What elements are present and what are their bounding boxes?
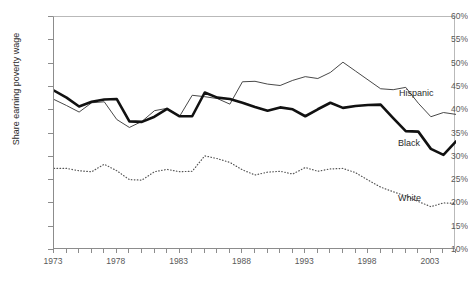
y-tick-mark [48, 16, 53, 17]
x-tick-mark [417, 249, 418, 253]
y-tick-label: 15% [434, 222, 468, 230]
x-tick-mark [329, 249, 330, 253]
x-tick-mark [342, 249, 343, 253]
y-tick-label: 55% [434, 35, 468, 43]
x-tick-mark [254, 249, 255, 253]
x-tick-mark [279, 249, 280, 253]
x-tick-label: 2003 [410, 256, 450, 266]
x-tick-mark [128, 249, 129, 253]
x-tick-mark [405, 249, 406, 253]
x-tick-mark [166, 249, 167, 253]
x-tick-mark [204, 249, 205, 253]
y-tick-mark [48, 156, 53, 157]
y-tick-label: 20% [434, 198, 468, 206]
y-tick-label: 40% [434, 105, 468, 113]
series-label-hispanic: Hispanic [399, 88, 434, 98]
x-tick-mark [53, 249, 54, 253]
x-tick-mark [191, 249, 192, 253]
x-tick-mark [103, 249, 104, 253]
y-tick-mark [48, 202, 53, 203]
x-tick-mark [355, 249, 356, 253]
x-tick-mark [216, 249, 217, 253]
y-tick-mark [48, 39, 53, 40]
y-axis-title: Share earning poverty wage [11, 19, 21, 159]
y-tick-mark [48, 63, 53, 64]
series-label-white: White [398, 193, 421, 203]
y-tick-label: 50% [434, 59, 468, 67]
x-tick-mark [455, 249, 456, 253]
x-tick-mark [66, 249, 67, 253]
x-tick-mark [78, 249, 79, 253]
y-tick-mark [48, 109, 53, 110]
series-line-hispanic [54, 62, 456, 127]
y-tick-label: 10% [434, 245, 468, 253]
series-line-black [54, 91, 456, 155]
x-tick-mark [442, 249, 443, 253]
x-tick-label: 1973 [33, 256, 73, 266]
x-tick-mark [267, 249, 268, 253]
y-tick-mark [48, 86, 53, 87]
x-tick-mark [91, 249, 92, 253]
x-tick-mark [116, 249, 117, 253]
x-tick-mark [380, 249, 381, 253]
y-tick-label: 30% [434, 152, 468, 160]
x-tick-mark [392, 249, 393, 253]
x-tick-label: 1983 [159, 256, 199, 266]
y-tick-mark [48, 226, 53, 227]
y-tick-mark [48, 133, 53, 134]
x-tick-mark [430, 249, 431, 253]
x-tick-label: 1978 [96, 256, 136, 266]
x-tick-mark [304, 249, 305, 253]
x-tick-mark [229, 249, 230, 253]
chart-title [120, 0, 380, 3]
y-tick-label: 60% [434, 12, 468, 20]
y-tick-mark [48, 179, 53, 180]
chart-container: Share earning poverty wage 60%55%50%45%4… [0, 0, 468, 286]
plot-area [53, 16, 455, 249]
x-tick-mark [292, 249, 293, 253]
y-tick-label: 45% [434, 82, 468, 90]
series-line-white [54, 156, 456, 207]
y-tick-label: 25% [434, 175, 468, 183]
x-tick-mark [241, 249, 242, 253]
series-label-black: Black [398, 138, 420, 148]
x-tick-mark [154, 249, 155, 253]
y-tick-label: 35% [434, 129, 468, 137]
series-lines [54, 17, 456, 250]
x-tick-mark [179, 249, 180, 253]
x-tick-mark [141, 249, 142, 253]
x-tick-label: 1993 [284, 256, 324, 266]
x-tick-mark [317, 249, 318, 253]
x-tick-label: 1988 [221, 256, 261, 266]
x-tick-mark [367, 249, 368, 253]
x-tick-label: 1998 [347, 256, 387, 266]
